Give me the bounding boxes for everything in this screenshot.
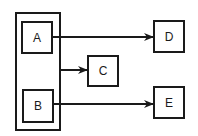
node-b: B: [23, 90, 53, 122]
node-b-label: B: [34, 99, 42, 113]
diagram-canvas: A B C D E: [0, 0, 198, 136]
node-a-label: A: [33, 31, 41, 45]
node-c-label: C: [99, 64, 108, 78]
node-d: D: [154, 21, 184, 52]
node-e: E: [154, 87, 184, 118]
node-d-label: D: [165, 30, 174, 44]
node-a: A: [22, 22, 52, 53]
node-c: C: [88, 56, 118, 86]
node-e-label: E: [165, 96, 173, 110]
